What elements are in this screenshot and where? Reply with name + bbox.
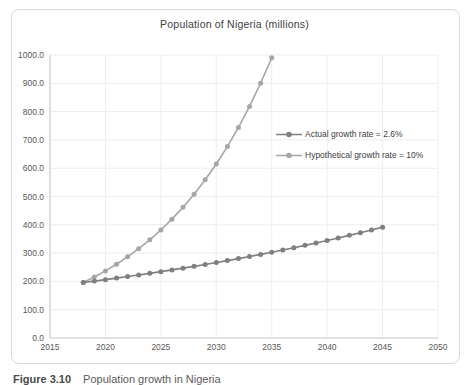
data-point-actual-growth-rate-2-6	[214, 260, 219, 265]
x-tick-label: 2050	[429, 342, 448, 352]
y-tick-label: 900.0	[23, 78, 45, 88]
figure-caption: Figure 3.10Population growth in Nigeria	[13, 373, 453, 382]
data-point-actual-growth-rate-2-6	[314, 240, 319, 245]
legend-marker-hypothetical-icon	[276, 151, 302, 160]
data-point-actual-growth-rate-2-6	[280, 247, 285, 252]
x-tick-label: 2035	[262, 342, 281, 352]
data-point-actual-growth-rate-2-6	[302, 243, 307, 248]
data-point-actual-growth-rate-2-6	[269, 250, 274, 255]
x-tick-label: 2025	[151, 342, 170, 352]
data-point-actual-growth-rate-2-6	[192, 264, 197, 269]
y-tick-label: 200.0	[23, 276, 45, 286]
data-point-actual-growth-rate-2-6	[236, 256, 241, 261]
x-tick-label: 2020	[96, 342, 115, 352]
data-point-hypothetical-growth-rate-10	[214, 162, 219, 167]
data-point-actual-growth-rate-2-6	[181, 266, 186, 271]
data-point-actual-growth-rate-2-6	[247, 254, 252, 259]
data-point-actual-growth-rate-2-6	[291, 245, 296, 250]
x-tick-label: 2040	[318, 342, 337, 352]
data-point-actual-growth-rate-2-6	[203, 262, 208, 267]
data-point-actual-growth-rate-2-6	[169, 267, 174, 272]
data-point-hypothetical-growth-rate-10	[169, 217, 174, 222]
data-point-actual-growth-rate-2-6	[158, 269, 163, 274]
y-tick-label: 100.0	[23, 305, 45, 315]
data-point-hypothetical-growth-rate-10	[269, 55, 274, 60]
data-point-hypothetical-growth-rate-10	[236, 125, 241, 130]
data-point-hypothetical-growth-rate-10	[247, 104, 252, 109]
x-tick-label: 2015	[41, 342, 60, 352]
data-point-hypothetical-growth-rate-10	[125, 254, 130, 259]
legend: Actual growth rate = 2.6% Hypothetical g…	[276, 129, 423, 160]
y-tick-label: 700.0	[23, 135, 45, 145]
legend-item-hypothetical: Hypothetical growth rate = 10%	[276, 150, 423, 160]
legend-item-actual: Actual growth rate = 2.6%	[276, 129, 423, 139]
y-tick-label: 300.0	[23, 248, 45, 258]
data-point-actual-growth-rate-2-6	[114, 276, 119, 281]
data-point-hypothetical-growth-rate-10	[136, 246, 141, 251]
x-tick-label: 2045	[373, 342, 392, 352]
data-point-actual-growth-rate-2-6	[336, 235, 341, 240]
data-point-hypothetical-growth-rate-10	[103, 268, 108, 273]
y-tick-label: 500.0	[23, 192, 45, 202]
figure-caption-number: Figure 3.10	[13, 373, 71, 385]
figure-caption-text: Population growth in Nigeria	[83, 373, 221, 385]
series-line-hypothetical-growth-rate-10	[83, 58, 271, 283]
data-point-hypothetical-growth-rate-10	[181, 205, 186, 210]
data-point-actual-growth-rate-2-6	[347, 233, 352, 238]
data-point-actual-growth-rate-2-6	[358, 230, 363, 235]
legend-label-actual: Actual growth rate = 2.6%	[305, 129, 403, 139]
x-tick-label: 2030	[207, 342, 226, 352]
data-point-hypothetical-growth-rate-10	[158, 227, 163, 232]
data-point-actual-growth-rate-2-6	[81, 280, 86, 285]
data-point-hypothetical-growth-rate-10	[192, 192, 197, 197]
data-point-actual-growth-rate-2-6	[225, 258, 230, 263]
data-point-hypothetical-growth-rate-10	[147, 237, 152, 242]
data-point-actual-growth-rate-2-6	[325, 238, 330, 243]
data-point-actual-growth-rate-2-6	[136, 272, 141, 277]
y-tick-label: 400.0	[23, 220, 45, 230]
data-point-hypothetical-growth-rate-10	[114, 262, 119, 267]
legend-marker-actual-icon	[276, 130, 302, 139]
data-point-actual-growth-rate-2-6	[147, 271, 152, 276]
data-point-actual-growth-rate-2-6	[369, 227, 374, 232]
data-point-hypothetical-growth-rate-10	[203, 177, 208, 182]
y-tick-label: 800.0	[23, 107, 45, 117]
legend-label-hypothetical: Hypothetical growth rate = 10%	[305, 150, 423, 160]
data-point-actual-growth-rate-2-6	[92, 279, 97, 284]
data-point-hypothetical-growth-rate-10	[225, 144, 230, 149]
data-point-hypothetical-growth-rate-10	[258, 81, 263, 86]
data-point-actual-growth-rate-2-6	[125, 274, 130, 279]
y-tick-label: 600.0	[23, 163, 45, 173]
data-point-actual-growth-rate-2-6	[258, 252, 263, 257]
data-point-actual-growth-rate-2-6	[103, 277, 108, 282]
y-tick-label: 1000.0	[18, 50, 44, 60]
data-point-actual-growth-rate-2-6	[380, 225, 385, 230]
